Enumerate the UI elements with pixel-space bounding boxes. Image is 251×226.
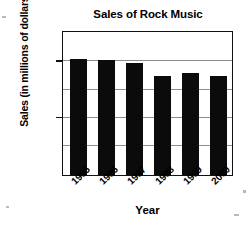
x-axis-title: Year <box>62 204 233 216</box>
gridline-2000 <box>63 117 232 118</box>
scan-speck <box>234 214 239 216</box>
gridline-4000 <box>63 60 232 61</box>
chart-screenshot: Sales of Rock Music Sales (in millions o… <box>0 0 251 226</box>
scan-speck <box>6 206 9 208</box>
y-axis-title: Sales (in millions of dollars) <box>18 0 30 127</box>
gridline-3000 <box>63 89 232 90</box>
gridline-1000 <box>63 145 232 146</box>
scan-speck <box>243 190 246 193</box>
y-axis-title-container: Sales (in millions of dollars) <box>16 0 32 140</box>
scan-speck <box>2 16 6 18</box>
chart-title: Sales of Rock Music <box>62 8 234 20</box>
bar-1995 <box>70 59 87 175</box>
